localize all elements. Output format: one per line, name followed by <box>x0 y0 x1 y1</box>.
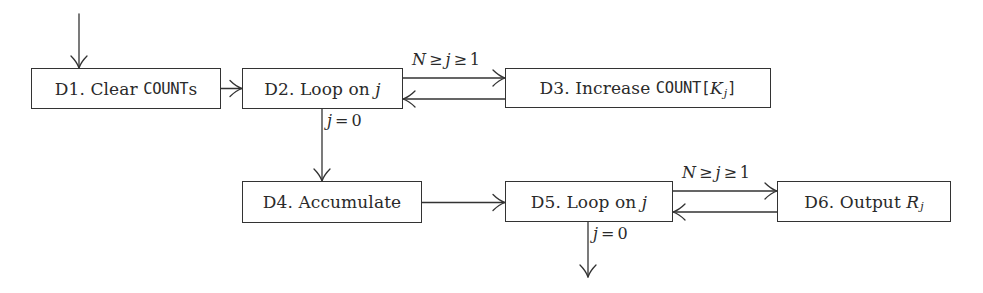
label-zero: 0 <box>617 224 627 243</box>
arrow-d5-to-d6 <box>673 183 777 199</box>
node-d5-var: j <box>642 192 647 212</box>
label-j: j <box>445 50 450 69</box>
node-d6-output: D6. Output Rj <box>777 181 951 222</box>
label-j: j <box>593 224 598 243</box>
node-d5-prefix: D5. Loop on <box>531 192 642 212</box>
connector-layer <box>0 0 983 293</box>
node-d3-increase-count: D3. Increase COUNT[Kj] <box>505 68 771 108</box>
label-j: j <box>327 111 332 130</box>
entry-arrow <box>71 14 87 68</box>
label-ge: ≥ <box>453 50 466 69</box>
node-d3-code: COUNT[ <box>656 79 710 97</box>
edge-label-d5-d6: N≥j≥1 <box>682 163 750 182</box>
node-d3-code-close: ] <box>727 79 736 97</box>
arrow-d3-to-d2 <box>403 91 505 107</box>
node-d2-prefix: D2. Loop on <box>264 79 375 99</box>
label-ge: ≥ <box>723 163 736 182</box>
node-d3-sub: j <box>724 87 728 100</box>
node-d3-var: K <box>710 78 723 98</box>
arrow-d6-to-d5 <box>673 204 777 220</box>
node-d2-var: j <box>375 79 380 99</box>
node-d4-accumulate: D4. Accumulate <box>242 181 422 223</box>
label-n: N <box>682 163 696 182</box>
node-d6-var: R <box>906 192 919 212</box>
label-zero: 0 <box>351 111 361 130</box>
label-ge: ≥ <box>429 50 442 69</box>
edge-label-d2-d4: j=0 <box>327 111 362 130</box>
node-d2-loop-on-j: D2. Loop on j <box>242 68 403 109</box>
arrow-d4-to-d5 <box>422 195 505 211</box>
arrow-d2-to-d3 <box>403 70 505 86</box>
node-d6-prefix: D6. Output <box>804 192 906 212</box>
label-one: 1 <box>470 50 480 69</box>
label-j: j <box>715 163 720 182</box>
node-d1-prefix: D1. Clear <box>55 79 143 99</box>
arrow-d1-to-d2 <box>221 81 242 97</box>
label-eq: = <box>335 111 348 130</box>
edge-label-d2-d3: N≥j≥1 <box>412 50 480 69</box>
label-one: 1 <box>740 163 750 182</box>
node-d3-prefix: D3. Increase <box>540 78 656 98</box>
label-n: N <box>412 50 426 69</box>
edge-label-d5-exit: j=0 <box>593 224 628 243</box>
node-d1-suffix: s <box>188 79 197 99</box>
node-d1-code: COUNT <box>143 80 188 98</box>
node-d5-loop-on-j: D5. Loop on j <box>505 181 673 222</box>
node-d4-label: D4. Accumulate <box>263 192 401 212</box>
label-eq: = <box>601 224 614 243</box>
node-d6-sub: j <box>920 200 924 213</box>
label-ge: ≥ <box>699 163 712 182</box>
node-d1-clear-counts: D1. Clear COUNTs <box>31 68 221 109</box>
